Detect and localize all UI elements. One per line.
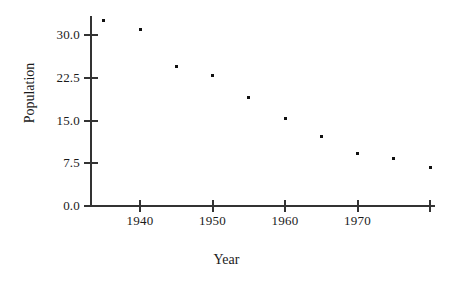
plot-area: 0.07.515.022.530.0 1940195019601970 <box>0 0 453 282</box>
data-point <box>247 96 250 99</box>
y-tick-label: 15.0 <box>36 114 80 127</box>
x-tick-1970 <box>357 200 359 212</box>
data-point <box>284 117 287 120</box>
data-point <box>320 135 323 138</box>
data-point <box>211 74 214 77</box>
x-axis-title: Year <box>0 252 453 268</box>
y-tick-label: 22.5 <box>36 71 80 84</box>
x-tick-1960 <box>284 200 286 212</box>
data-point <box>429 166 432 169</box>
y-tick-7.5 <box>84 162 98 164</box>
y-tick-30.0 <box>84 34 98 36</box>
y-tick-label: 30.0 <box>36 28 80 41</box>
x-tick-1940 <box>139 200 141 212</box>
x-tick-label: 1940 <box>110 214 170 228</box>
data-point <box>392 157 395 160</box>
x-tick-1950 <box>212 200 214 212</box>
data-point <box>139 28 142 31</box>
data-point <box>356 152 359 155</box>
scatter-chart-figure: 0.07.515.022.530.0 1940195019601970 Popu… <box>0 0 453 282</box>
y-tick-22.5 <box>84 77 98 79</box>
x-tick-1980 <box>429 200 431 212</box>
y-tick-label: 0.0 <box>36 199 80 212</box>
y-axis-title: Population <box>22 33 38 153</box>
x-tick-label: 1960 <box>255 214 315 228</box>
y-axis-line <box>90 16 92 207</box>
x-tick-label: 1950 <box>183 214 243 228</box>
data-point <box>175 65 178 68</box>
x-axis-line <box>90 205 435 207</box>
x-tick-label: 1970 <box>328 214 388 228</box>
data-point <box>102 19 105 22</box>
y-tick-15.0 <box>84 120 98 122</box>
y-tick-0.0 <box>84 205 98 207</box>
y-tick-label: 7.5 <box>36 156 80 169</box>
